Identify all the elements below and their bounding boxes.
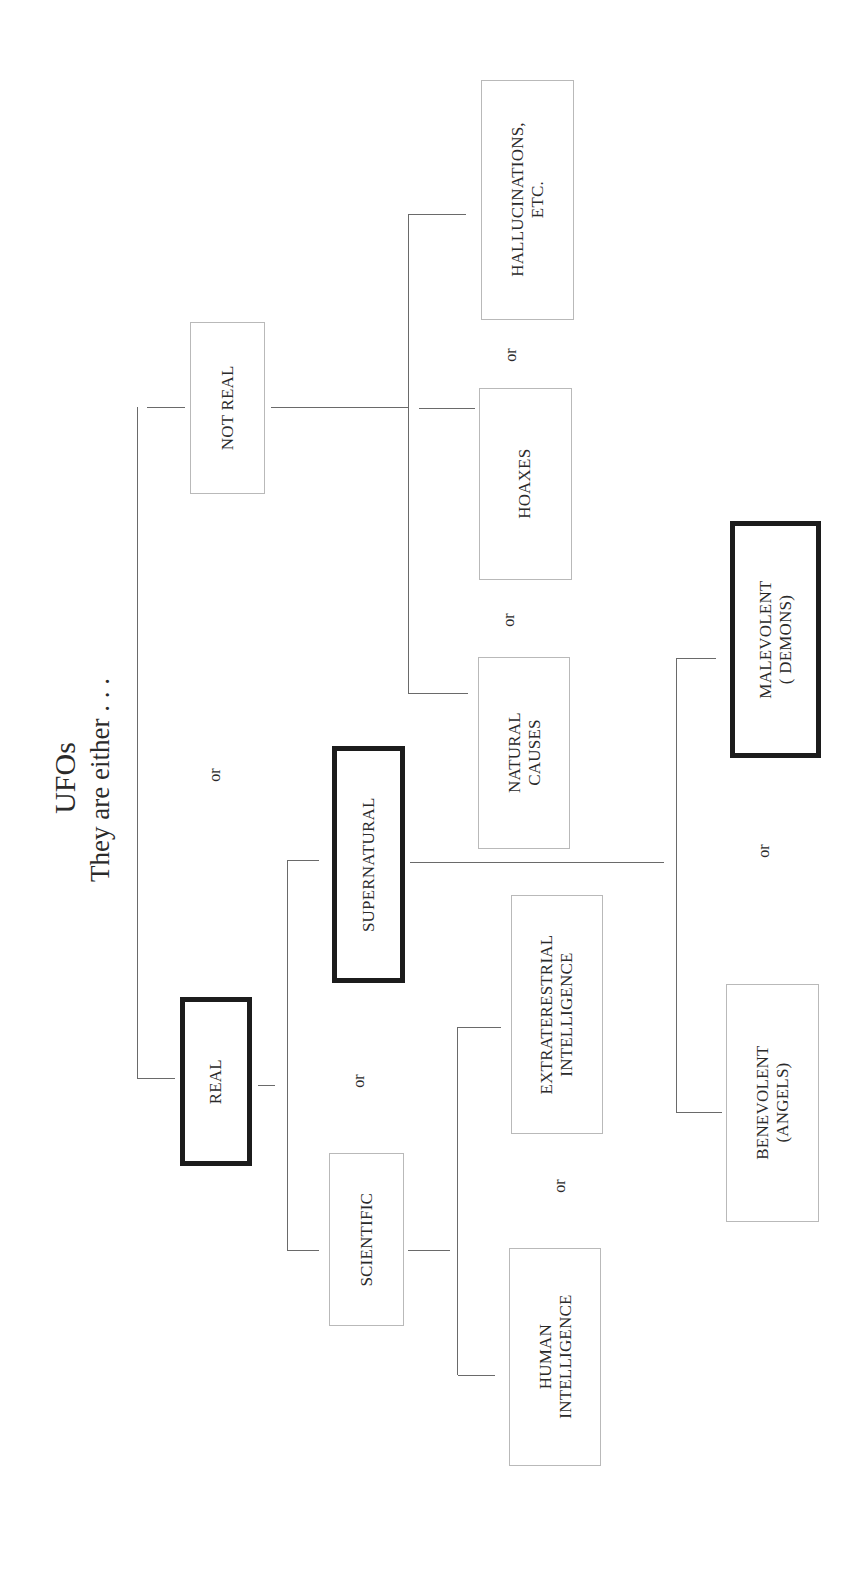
- or-extraterrestrial-vs-human: or: [551, 1179, 569, 1192]
- connector-to-supernatural: [287, 860, 319, 861]
- connector-root-trunk: [137, 407, 138, 1079]
- node-hoaxes-label: HOAXES: [516, 449, 536, 519]
- connector-to-human: [458, 1375, 495, 1376]
- node-real: REAL: [180, 997, 252, 1166]
- node-extraterrestrial: EXTRATERESTRIAL INTELLIGENCE: [511, 895, 603, 1134]
- node-malevolent-label: MALEVOLENT ( DEMONS): [756, 580, 795, 698]
- connector-not-real-out: [271, 407, 409, 408]
- connector-real-trunk: [287, 860, 288, 1250]
- node-natural-causes-label: NATURAL CAUSES: [504, 713, 543, 794]
- connector-to-scientific: [287, 1250, 319, 1251]
- diagram-title: UFOs: [47, 643, 83, 913]
- node-scientific-label: SCIENTIFIC: [357, 1193, 377, 1287]
- connector-supernatural-out: [410, 862, 664, 863]
- node-hoaxes: HOAXES: [479, 388, 572, 580]
- title-main: UFOs: [48, 742, 81, 814]
- node-malevolent: MALEVOLENT ( DEMONS): [730, 521, 821, 758]
- connector-to-hallucinations: [409, 214, 466, 215]
- or-malevolent-vs-benevolent: or: [755, 844, 773, 857]
- connector-to-natural-causes: [408, 693, 468, 694]
- connector-not-real-trunk: [408, 214, 409, 693]
- or-supernatural-vs-scientific: or: [350, 1074, 368, 1087]
- connector-real-out: [258, 1085, 275, 1086]
- connector-to-benevolent: [676, 1112, 722, 1113]
- node-hallucinations-label: HALLUCINATIONS, ETC.: [508, 123, 547, 278]
- or-hallucinations-vs-hoaxes: or: [502, 348, 520, 361]
- node-supernatural-label: SUPERNATURAL: [359, 797, 379, 932]
- node-hallucinations: HALLUCINATIONS, ETC.: [481, 80, 574, 320]
- node-real-label: REAL: [206, 1059, 226, 1104]
- connector-scientific-out: [408, 1250, 450, 1251]
- connector-supernatural-trunk: [676, 658, 677, 1112]
- or-hoaxes-vs-natural: or: [500, 613, 518, 626]
- or-real-vs-not-real: or: [206, 768, 224, 781]
- node-benevolent-label: BENEVOLENT (ANGELS): [753, 1046, 792, 1160]
- node-human-intelligence: HUMAN INTELLIGENCE: [509, 1248, 601, 1466]
- node-supernatural: SUPERNATURAL: [332, 746, 405, 983]
- node-scientific: SCIENTIFIC: [329, 1153, 404, 1326]
- node-natural-causes: NATURAL CAUSES: [478, 657, 570, 849]
- connector-scientific-trunk: [457, 1027, 458, 1375]
- node-extraterrestrial-label: EXTRATERESTRIAL INTELLIGENCE: [537, 935, 576, 1095]
- connector-root-to-real: [137, 1078, 175, 1079]
- node-human-intelligence-label: HUMAN INTELLIGENCE: [535, 1295, 574, 1419]
- diagram-subtitle: They are either . . .: [82, 645, 118, 915]
- node-benevolent: BENEVOLENT (ANGELS): [726, 984, 819, 1222]
- node-not-real: NOT REAL: [190, 322, 265, 494]
- node-not-real-label: NOT REAL: [218, 366, 238, 451]
- title-subtitle: They are either . . .: [85, 678, 115, 882]
- connector-to-hoaxes: [419, 408, 475, 409]
- connector-to-malevolent: [676, 658, 716, 659]
- connector-root-to-not-real: [147, 407, 185, 408]
- connector-to-extraterrestrial: [458, 1027, 501, 1028]
